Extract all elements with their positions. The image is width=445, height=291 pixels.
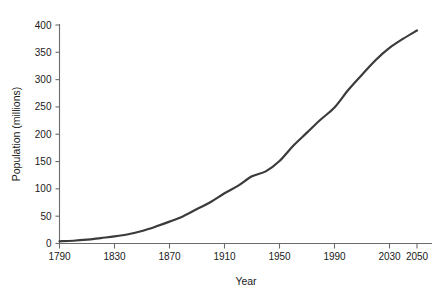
x-tick-label: 1990 [323,251,346,262]
y-tick-label: 300 [35,74,52,85]
y-tick-label: 200 [35,129,52,140]
chart-canvas: 050100150200250300350400 179018301870191… [0,0,445,291]
y-tick-label: 400 [35,20,52,31]
x-tick-label: 1870 [158,251,181,262]
x-tick-label: 2050 [406,251,429,262]
x-tick-label: 1830 [103,251,126,262]
x-tick-label: 1910 [213,251,236,262]
x-axis-title: Year [235,275,257,287]
y-axis-title: Population (millions) [10,87,22,182]
y-tick-label: 0 [46,238,52,249]
population-line-chart: 050100150200250300350400 179018301870191… [0,0,445,291]
x-tick-label: 2030 [378,251,401,262]
y-tick-label: 100 [35,183,52,194]
chart-background [0,0,445,291]
y-tick-label: 150 [35,156,52,167]
y-tick-label: 350 [35,47,52,58]
x-tick-label: 1950 [268,251,291,262]
x-tick-label: 1790 [48,251,71,262]
y-tick-label: 50 [40,211,52,222]
y-tick-label: 250 [35,101,52,112]
